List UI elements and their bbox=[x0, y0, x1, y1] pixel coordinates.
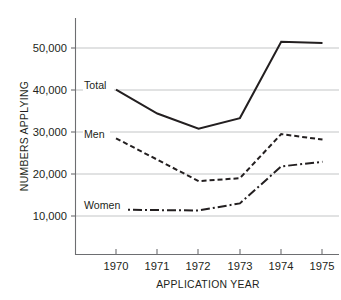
gridlines bbox=[75, 48, 339, 216]
series-label-total: Total bbox=[84, 79, 106, 91]
y-tick-labels: 50,000 40,000 30,000 20,000 10,000 bbox=[33, 42, 67, 222]
series-inline-labels: Total Men Women bbox=[83, 79, 127, 212]
x-tick-labels: 1970 1971 1972 1973 1974 1975 bbox=[104, 260, 335, 272]
y-axis-title: NUMBERS APPLYING bbox=[19, 81, 30, 191]
x-tick-label-1974: 1974 bbox=[269, 260, 294, 272]
y-tick-label-10000: 10,000 bbox=[33, 210, 67, 222]
x-tick-label-1973: 1973 bbox=[228, 260, 253, 272]
y-tick-label-30000: 30,000 bbox=[33, 126, 67, 138]
y-tick-label-20000: 20,000 bbox=[33, 168, 67, 180]
x-tick-label-1971: 1971 bbox=[145, 260, 170, 272]
y-tick-label-50000: 50,000 bbox=[33, 42, 67, 54]
x-axis bbox=[75, 249, 339, 255]
x-tick-label-1975: 1975 bbox=[310, 260, 335, 272]
series-lines bbox=[116, 42, 323, 211]
x-tick-label-1972: 1972 bbox=[186, 260, 211, 272]
series-line-total bbox=[116, 42, 323, 129]
x-tick-label-1970: 1970 bbox=[104, 260, 129, 272]
series-label-women: Women bbox=[84, 199, 120, 211]
series-line-women bbox=[116, 162, 323, 211]
y-tick-label-40000: 40,000 bbox=[33, 84, 67, 96]
y-axis bbox=[71, 18, 76, 255]
chart-canvas: 50,000 40,000 30,000 20,000 10,000 1970 … bbox=[0, 0, 341, 300]
x-axis-title: APPLICATION YEAR bbox=[156, 279, 260, 290]
line-chart: 50,000 40,000 30,000 20,000 10,000 1970 … bbox=[0, 0, 341, 300]
series-label-men: Men bbox=[84, 128, 105, 140]
